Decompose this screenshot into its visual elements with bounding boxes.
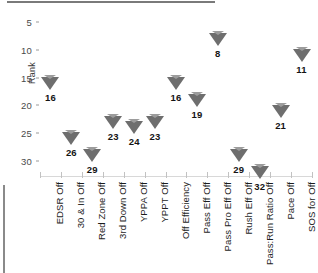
data-point-marker-highlight [65,130,77,134]
x-tick-label-1: 30 & In Off [75,182,86,228]
data-point-marker-highlight [275,103,287,107]
y-tick-mark [36,77,39,78]
data-point-marker-highlight [254,164,266,168]
rank-scatter-chart: Rank 51015202530 EDSR Off30 & In OffRed … [0,0,318,273]
data-point-label: 29 [233,164,244,175]
data-point-label: 23 [150,131,161,142]
y-tick-mark [36,22,39,23]
data-point-marker-highlight [233,147,245,151]
data-point-label: 21 [275,120,286,131]
data-point-label: 11 [296,64,306,75]
data-point-marker-highlight [296,47,308,51]
x-tick-label-8: Pass Pro Eff Off [222,182,233,251]
x-tick-label-4: YPPA Off [138,182,149,222]
data-point-label: 23 [108,131,119,142]
y-tick-label: 15 [10,72,32,83]
top-border-line [7,1,215,3]
x-tick-label-12: SOS for Off [306,182,317,232]
data-point-label: 29 [87,164,98,175]
data-point-marker-highlight [191,92,203,96]
left-border-line [3,185,5,273]
x-tick-label-2: Red Zone Off [96,182,107,240]
data-point-label: 8 [215,48,220,59]
data-point-label: 24 [129,136,140,147]
data-point-label: 19 [191,109,202,120]
x-tick-label-3: 3rd Down Off [117,182,128,239]
x-axis-line [40,176,312,177]
y-tick-label: 20 [10,100,32,111]
y-tick-label: 10 [10,44,32,55]
data-point-marker-highlight [107,114,119,118]
data-point-label: 16 [45,92,56,103]
y-tick-mark [36,49,39,50]
x-tick-label-7: Pass Eff Off [201,182,212,234]
data-point-marker-highlight [170,75,182,79]
data-point-label: 26 [66,147,77,158]
data-point-marker-highlight [44,75,56,79]
y-tick-label: 25 [10,127,32,138]
data-point-label: 32 [254,181,265,192]
x-tick-label-11: Pace Off [285,182,296,220]
data-point-marker-highlight [86,147,98,151]
data-point-marker-highlight [149,114,161,118]
x-tick-label-0: EDSR Off [54,182,65,224]
x-tick-label-9: Rush Eff Off [243,182,254,235]
y-tick-mark [36,132,39,133]
x-tick-label-10: Pass:Run Ratio Off [264,182,275,265]
data-point-marker-highlight [128,119,140,123]
y-tick-mark [36,105,39,106]
data-point-marker-highlight [212,31,224,35]
x-tick-mark [312,172,313,178]
y-tick-mark [36,160,39,161]
y-tick-label: 5 [10,17,32,28]
x-tick-label-5: YPPT Off [159,182,170,223]
x-tick-label-6: Off Efficiency [180,182,191,239]
data-point-label: 16 [171,92,182,103]
y-tick-label: 30 [10,155,32,166]
